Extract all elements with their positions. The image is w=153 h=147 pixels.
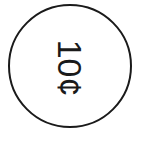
coin-value-label: 10¢	[53, 40, 87, 97]
